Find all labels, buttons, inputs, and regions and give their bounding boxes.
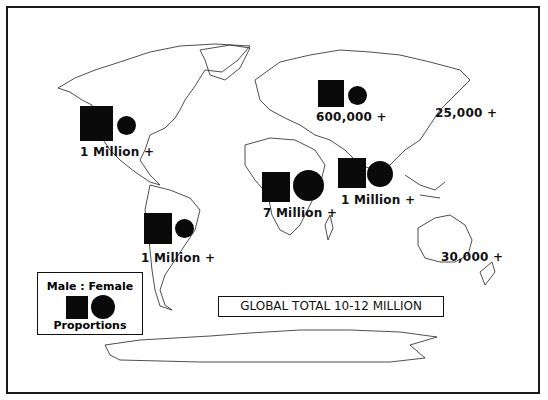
female-circle-icon [91, 295, 115, 319]
region-label: 30,000 + [441, 250, 503, 264]
region-label: 25,000 + [435, 106, 497, 120]
region-label: 600,000 + [316, 110, 387, 124]
male-square-icon [66, 296, 88, 319]
female-circle-icon [293, 170, 324, 201]
male-square-icon [80, 106, 113, 141]
female-circle-icon [175, 219, 194, 238]
legend-subtitle: Proportions [38, 319, 142, 332]
female-circle-icon [348, 86, 367, 105]
legend-box: Male : Female Proportions [37, 272, 143, 335]
region-label: 1 Million + [80, 145, 154, 159]
male-square-icon [318, 80, 344, 107]
global-total-box: GLOBAL TOTAL 10-12 MILLION [218, 296, 444, 317]
legend-title: Male : Female [38, 280, 142, 293]
region-label: 1 Million + [341, 193, 415, 207]
male-square-icon [262, 172, 290, 202]
female-circle-icon [117, 116, 136, 135]
female-circle-icon [367, 161, 393, 187]
region-label: 1 Million + [141, 251, 215, 265]
male-square-icon [144, 213, 172, 244]
male-square-icon [338, 158, 366, 188]
region-label: 7 Million + [263, 206, 337, 220]
